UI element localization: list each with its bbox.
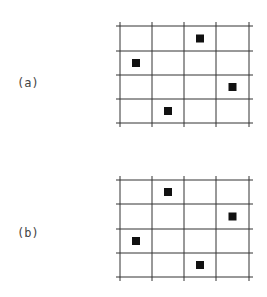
filled-square-marker [196, 35, 204, 43]
filled-square-marker [164, 188, 172, 196]
filled-square-marker [196, 261, 204, 269]
filled-square-marker [132, 237, 140, 245]
filled-square-marker [229, 213, 237, 221]
filled-square-marker [164, 107, 172, 115]
filled-square-marker [132, 59, 140, 67]
grid-panel-a [116, 22, 253, 127]
grid-panel-b [116, 176, 253, 281]
filled-square-marker [229, 83, 237, 91]
diagram-canvas [0, 0, 267, 297]
